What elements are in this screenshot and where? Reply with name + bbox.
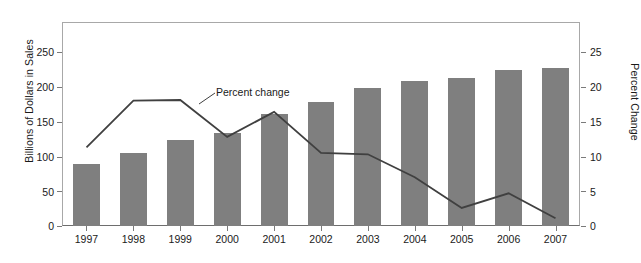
x-axis-label-2003: 2003 [346,233,390,245]
bar-2003[interactable] [354,88,381,226]
bar-2001[interactable] [261,114,288,226]
x-axis-label-1998: 1998 [111,233,155,245]
x-axis-tickmark-2007 [556,226,557,231]
x-axis-label-2006: 2006 [487,233,531,245]
x-axis-tickmark-2000 [227,226,228,231]
bar-2007[interactable] [542,68,569,226]
y-axis-right-tick-5: 5 [590,186,620,198]
y-axis-left-tickmark-200 [57,87,62,88]
x-axis-tickmark-2004 [415,226,416,231]
y-axis-left-tickmark-150 [57,122,62,123]
y-axis-left-tickmark-0 [57,226,62,227]
bar-1999[interactable] [167,140,194,226]
x-axis-tickmark-2005 [462,226,463,231]
bar-2000[interactable] [214,133,241,226]
bar-2004[interactable] [401,81,428,226]
y-axis-left-tick-150: 150 [24,116,54,128]
y-axis-right-tickmark-15 [581,122,586,123]
percent-change-annotation-label: Percent change [216,86,290,98]
x-axis-tickmark-2003 [368,226,369,231]
y-axis-right-tick-0: 0 [590,220,620,232]
y-axis-left-tick-50: 50 [24,186,54,198]
bar-1997[interactable] [73,164,100,226]
x-axis-label-2005: 2005 [440,233,484,245]
y-axis-right-title: Percent Change [629,12,641,192]
x-axis-label-2004: 2004 [393,233,437,245]
x-axis-label-2002: 2002 [299,233,343,245]
y-axis-right-tickmark-10 [581,157,586,158]
y-axis-right-tick-15: 15 [590,116,620,128]
x-axis-tickmark-2002 [321,226,322,231]
y-axis-left-tickmark-50 [57,191,62,192]
bar-2005[interactable] [448,78,475,226]
y-axis-right-tickmark-20 [581,87,586,88]
bar-2002[interactable] [308,102,335,226]
y-axis-left-tick-0: 0 [24,220,54,232]
bar-1998[interactable] [120,153,147,226]
y-axis-right-tickmark-0 [581,226,586,227]
y-axis-left-tick-250: 250 [24,46,54,58]
x-axis-tickmark-1998 [133,226,134,231]
x-axis-tickmark-1997 [86,226,87,231]
x-axis-label-2000: 2000 [205,233,249,245]
x-axis-label-2007: 2007 [534,233,578,245]
y-axis-left-title: Billions of Dollars in Sales [23,11,35,191]
x-axis-label-2001: 2001 [252,233,296,245]
y-axis-right-tick-25: 25 [590,46,620,58]
chart-container: Billions of Dollars in Sales Percent Cha… [0,0,641,263]
y-axis-left-tickmark-250 [57,52,62,53]
x-axis-tickmark-1999 [180,226,181,231]
y-axis-left-tick-100: 100 [24,151,54,163]
x-axis-tickmark-2001 [274,226,275,231]
x-axis-label-1999: 1999 [158,233,202,245]
y-axis-left-tick-200: 200 [24,81,54,93]
y-axis-right-tick-10: 10 [590,151,620,163]
y-axis-right-tick-20: 20 [590,81,620,93]
y-axis-right-tickmark-25 [581,52,586,53]
x-axis-label-1997: 1997 [64,233,108,245]
y-axis-right-tickmark-5 [581,191,586,192]
y-axis-left-tickmark-100 [57,157,62,158]
bar-2006[interactable] [495,70,522,226]
x-axis-tickmark-2006 [509,226,510,231]
